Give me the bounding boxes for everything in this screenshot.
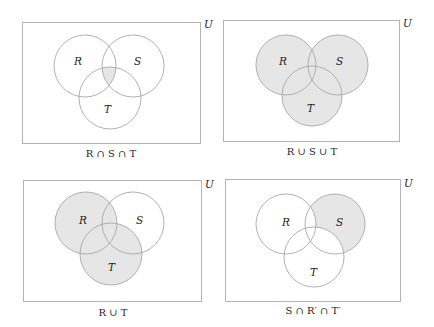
set-r-label: R xyxy=(281,216,290,228)
set-s-label: S xyxy=(136,214,143,226)
venn-panel-4: R S T U S ∩ R′ ∩ T′ xyxy=(226,177,415,316)
set-s-label: S xyxy=(336,55,343,67)
set-r-label: R xyxy=(78,214,87,226)
set-t-label: T xyxy=(307,102,315,114)
panel-caption: R ∩ S ∩ T xyxy=(86,148,137,159)
venn-panel-1: R S T U R ∩ S ∩ T xyxy=(23,18,215,159)
set-s-circle xyxy=(102,35,164,97)
venn-panel-2: R S T U R ∪ S ∪ T xyxy=(224,17,414,157)
set-t-label: T xyxy=(108,261,116,273)
set-t-label: T xyxy=(104,103,112,115)
universe-label: U xyxy=(205,178,215,190)
venn-diagram-figure: R S T U R ∩ S ∩ T R S T U R ∪ S ∪ T R S xyxy=(0,0,434,327)
venn-panel-3: R S T U R ∪ T xyxy=(24,178,216,318)
universe-label: U xyxy=(204,18,214,30)
set-r-label: R xyxy=(278,55,287,67)
universe-label: U xyxy=(404,177,414,189)
universe-label: U xyxy=(403,17,413,29)
set-t-label: T xyxy=(310,266,318,278)
set-r-circle xyxy=(54,35,116,97)
set-s-label: S xyxy=(134,55,141,67)
panel-caption: R ∪ T xyxy=(99,307,128,318)
panel-caption: R ∪ S ∪ T xyxy=(287,146,338,157)
set-s-label: S xyxy=(336,216,343,228)
panel-caption: S ∩ R′ ∩ T′ xyxy=(285,305,341,316)
shaded-region xyxy=(55,192,142,285)
universe-box xyxy=(23,23,201,144)
set-r-label: R xyxy=(73,55,82,67)
